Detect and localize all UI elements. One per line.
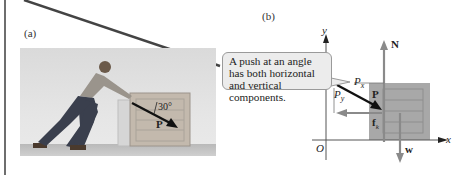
py-subscript: y bbox=[341, 94, 345, 103]
px-symbol: P bbox=[354, 75, 361, 87]
weight-label: w bbox=[405, 143, 413, 155]
normal-force-label: N bbox=[391, 38, 399, 50]
push-force-label-b: P bbox=[372, 88, 379, 100]
px-label: Px bbox=[354, 75, 364, 90]
y-axis-label: y bbox=[322, 24, 327, 36]
x-axis-label: x bbox=[446, 133, 451, 145]
origin-label: O bbox=[316, 142, 324, 154]
friction-label: fk bbox=[372, 116, 379, 131]
px-subscript: x bbox=[361, 81, 365, 90]
py-label: Py bbox=[334, 88, 344, 103]
callout-box: A push at an angle has both horizontal a… bbox=[222, 52, 332, 90]
py-symbol: P bbox=[334, 88, 341, 100]
friction-subscript: k bbox=[376, 123, 379, 131]
